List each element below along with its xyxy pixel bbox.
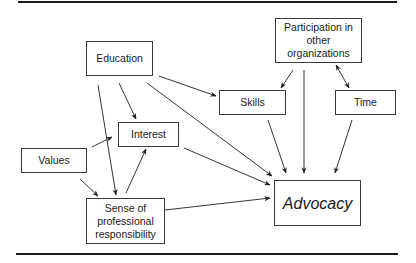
node-values: Values <box>21 148 87 173</box>
edge-sense-interest <box>126 149 146 193</box>
edge-education-interest <box>119 83 136 119</box>
edge-skills-advocacy <box>268 120 286 173</box>
node-skills: Skills <box>219 90 286 115</box>
edge-values-interest <box>92 137 112 147</box>
node-participation: Participation in other organizations <box>275 18 362 63</box>
node-education: Education <box>86 41 153 76</box>
edge-interest-advocacy <box>184 148 270 185</box>
node-advocacy: Advocacy <box>274 180 361 226</box>
node-interest: Interest <box>118 122 179 147</box>
edge-time-advocacy <box>335 120 352 173</box>
edge-participation-time <box>336 65 349 88</box>
edge-values-sense <box>80 179 98 196</box>
edge-sense-advocacy <box>165 198 270 210</box>
edge-education-skills <box>159 76 216 96</box>
edge-participation-skills <box>281 70 293 88</box>
node-time: Time <box>335 90 396 115</box>
node-sense-of-professional-responsibility: Sense of professional responsibility <box>86 198 165 244</box>
